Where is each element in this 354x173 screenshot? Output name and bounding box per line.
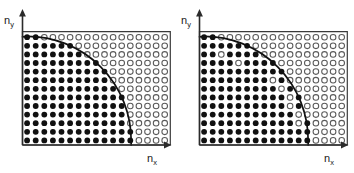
lattice-dot-filled	[76, 86, 82, 92]
lattice-dot-filled	[279, 77, 285, 83]
lattice-dot-filled	[93, 69, 99, 75]
lattice-dot-open	[136, 129, 142, 135]
lattice-dot-filled	[227, 52, 233, 58]
lattice-dot-open	[262, 34, 268, 40]
lattice-dot-filled	[41, 120, 47, 126]
lattice-dot-open	[339, 112, 345, 118]
lattice-dot-filled	[244, 69, 250, 75]
lattice-dot-filled	[33, 69, 39, 75]
lattice-dot-open	[279, 34, 285, 40]
lattice-dot-open	[128, 77, 134, 83]
lattice-dot-filled	[244, 95, 250, 101]
lattice-dot-open	[145, 129, 151, 135]
lattice-dot-filled	[201, 69, 207, 75]
lattice-dot-filled	[201, 103, 207, 109]
panel-left: nynx	[0, 0, 177, 173]
lattice-dot-filled	[279, 95, 285, 101]
lattice-dot-filled	[84, 129, 90, 135]
lattice-dot-open	[287, 34, 293, 40]
lattice-dot-filled	[24, 60, 30, 66]
lattice-dot-open	[102, 43, 108, 49]
lattice-dot-open	[119, 43, 125, 49]
lattice-dot-filled	[102, 120, 108, 126]
lattice-dot-filled	[236, 69, 242, 75]
lattice-dot-open	[330, 129, 336, 135]
lattice-dot-filled	[50, 69, 56, 75]
lattice-dot-filled	[261, 95, 267, 101]
lattice-dot-filled	[67, 112, 73, 118]
lattice-dot-filled	[59, 95, 65, 101]
lattice-dot-open	[270, 43, 276, 49]
lattice-dot-filled	[210, 60, 216, 66]
lattice-dot-open	[322, 129, 328, 135]
lattice-dot-open	[287, 103, 293, 109]
lattice-dot-open	[136, 103, 142, 109]
lattice-dot-filled	[102, 103, 108, 109]
lattice-dot-open	[119, 60, 125, 66]
lattice-dot-open	[59, 34, 65, 40]
x-axis-label: nx	[324, 152, 334, 167]
lattice-dot-open	[162, 95, 168, 101]
lattice-dot-filled	[41, 43, 47, 49]
lattice-dot-filled	[253, 95, 259, 101]
lattice-dot-open	[136, 52, 142, 58]
lattice-dot-open	[162, 86, 168, 92]
lattice-dot-filled	[76, 52, 82, 58]
lattice-dot-filled	[236, 129, 242, 135]
lattice-dot-open	[313, 95, 319, 101]
lattice-dot-filled	[227, 112, 233, 118]
lattice-dot-filled	[33, 86, 39, 92]
lattice-dot-open	[330, 69, 336, 75]
lattice-dot-filled	[244, 129, 250, 135]
lattice-dot-open	[153, 77, 159, 83]
lattice-dot-open	[136, 77, 142, 83]
lattice-dot-open	[128, 60, 134, 66]
lattice-dot-filled	[110, 95, 116, 101]
lattice-dot-open	[279, 60, 285, 66]
lattice-dot-filled	[244, 52, 250, 58]
lattice-dot-open	[119, 77, 125, 83]
lattice-dot-filled	[287, 120, 293, 126]
lattice-dot-filled	[67, 120, 73, 126]
lattice-dot-filled	[84, 138, 90, 144]
lattice-dot-open	[145, 120, 151, 126]
lattice-dot-open	[153, 86, 159, 92]
lattice-dot-open	[270, 77, 276, 83]
lattice-dot-open	[153, 34, 159, 40]
lattice-dot-filled	[110, 120, 116, 126]
lattice-dot-filled	[50, 86, 56, 92]
lattice-dot-filled	[24, 86, 30, 92]
lattice-dot-open	[136, 60, 142, 66]
lattice-dot-open	[296, 112, 302, 118]
lattice-dot-open	[93, 52, 99, 58]
lattice-dot-open	[279, 86, 285, 92]
lattice-dot-filled	[210, 129, 216, 135]
lattice-dot-filled	[236, 95, 242, 101]
lattice-dot-open	[330, 52, 336, 58]
lattice-dot-open	[85, 43, 91, 49]
lattice-dot-filled	[253, 103, 259, 109]
lattice-dot-filled	[59, 138, 65, 144]
lattice-dot-filled	[33, 103, 39, 109]
lattice-dot-filled	[41, 112, 47, 118]
lattice-dot-filled	[201, 77, 207, 83]
lattice-dot-open	[128, 43, 134, 49]
lattice-dot-filled	[110, 129, 116, 135]
lattice-dot-filled	[236, 138, 242, 144]
lattice-dot-filled	[93, 112, 99, 118]
lattice-dot-filled	[41, 103, 47, 109]
lattice-dot-open	[305, 60, 311, 66]
lattice-dot-filled	[24, 103, 30, 109]
lattice-dot-open	[339, 129, 345, 135]
lattice-dot-open	[322, 52, 328, 58]
lattice-dot-open	[145, 86, 151, 92]
lattice-dot-filled	[41, 52, 47, 58]
lattice-dot-filled	[84, 77, 90, 83]
lattice-dot-open	[128, 34, 134, 40]
lattice-dot-open	[162, 103, 168, 109]
lattice-dot-open	[322, 43, 328, 49]
lattice-dot-filled	[41, 138, 47, 144]
lattice-dot-filled	[287, 138, 293, 144]
lattice-dot-open	[339, 60, 345, 66]
lattice-dot-open	[136, 86, 142, 92]
